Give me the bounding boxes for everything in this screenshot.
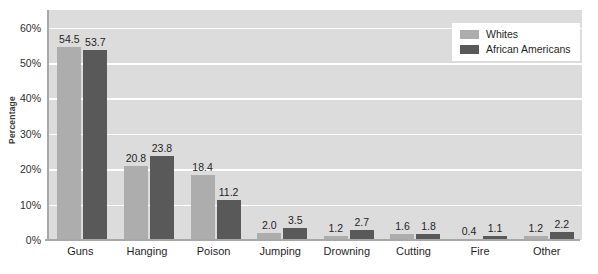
y-axis-tick-label: 10%	[20, 199, 41, 211]
y-axis-tick-label: 40%	[20, 92, 41, 104]
bar-item: 53.7	[83, 10, 107, 240]
x-axis-tick-label: Drowning	[324, 245, 370, 257]
x-axis-tick-label: Other	[533, 245, 561, 257]
bar-value-label: 1.8	[421, 220, 436, 232]
x-axis-tick-label: Cutting	[396, 245, 431, 257]
x-axis-tick-label: Fire	[471, 245, 490, 257]
bar-value-label: 3.5	[288, 214, 303, 226]
bar-value-label: 2.2	[554, 218, 569, 230]
bar-african-americans	[217, 200, 241, 240]
bar-value-label: 54.5	[59, 33, 79, 45]
y-axis-tick-label: 0%	[26, 234, 41, 246]
bar-value-label: 1.6	[395, 220, 410, 232]
legend-label: African Americans	[486, 43, 571, 55]
bar-value-label: 18.4	[192, 161, 212, 173]
bar-item: 2.7	[350, 10, 374, 240]
bar-group: 18.411.2	[182, 10, 249, 240]
bar-whites	[57, 47, 81, 240]
x-axis-tick-label: Jumping	[259, 245, 301, 257]
legend-item: Whites	[460, 28, 571, 40]
y-axis-tick-label: 30%	[20, 128, 41, 140]
bar-african-americans	[83, 50, 107, 240]
bar-value-label: 2.0	[262, 219, 277, 231]
bar-item: 3.5	[283, 10, 307, 240]
bar-item: 11.2	[217, 10, 241, 240]
legend-swatch-icon	[460, 45, 479, 54]
bar-item: 1.2	[324, 10, 348, 240]
x-axis-line	[45, 239, 580, 241]
chart-legend: WhitesAfrican Americans	[452, 23, 580, 61]
y-axis-tick-label: 20%	[20, 163, 41, 175]
x-axis-tick-labels: GunsHangingPoisonJumpingDrowningCuttingF…	[47, 245, 580, 265]
bar-value-label: 2.7	[355, 216, 370, 228]
bar-value-label: 1.2	[528, 222, 543, 234]
bar-item: 23.8	[150, 10, 174, 240]
y-axis-tick-label: 50%	[20, 57, 41, 69]
bar-whites	[191, 175, 215, 240]
bar-group: 1.22.7	[316, 10, 383, 240]
x-axis-tick-label: Guns	[67, 245, 93, 257]
bar-value-label: 23.8	[152, 142, 172, 154]
bar-item: 1.8	[416, 10, 440, 240]
bar-value-label: 1.2	[329, 222, 344, 234]
bar-item: 18.4	[191, 10, 215, 240]
legend-item: African Americans	[460, 43, 571, 55]
bar-item: 20.8	[124, 10, 148, 240]
bar-value-label: 1.1	[488, 222, 503, 234]
legend-label: Whites	[486, 28, 518, 40]
y-axis-tick-labels: 0%10%20%30%40%50%60%	[18, 10, 45, 240]
bar-group: 54.553.7	[49, 10, 116, 240]
bar-african-americans	[150, 156, 174, 240]
y-axis-title-text: Percentage	[7, 96, 17, 144]
bar-group: 20.823.8	[116, 10, 183, 240]
y-axis-tick-label: 60%	[20, 22, 41, 34]
bar-value-label: 0.4	[462, 225, 477, 237]
x-axis-tick-label: Hanging	[126, 245, 167, 257]
bar-value-label: 20.8	[126, 152, 146, 164]
bar-whites	[124, 166, 148, 240]
bar-value-label: 11.2	[219, 186, 239, 198]
bar-item: 1.6	[390, 10, 414, 240]
bar-chart: Percentage 0%10%20%30%40%50%60% 54.553.7…	[0, 0, 598, 274]
bar-item: 54.5	[57, 10, 81, 240]
legend-swatch-icon	[460, 30, 479, 39]
bar-item: 2.0	[257, 10, 281, 240]
bar-group: 2.03.5	[249, 10, 316, 240]
bar-value-label: 53.7	[85, 36, 105, 48]
x-axis-tick-label: Poison	[197, 245, 231, 257]
bar-group: 1.61.8	[382, 10, 449, 240]
